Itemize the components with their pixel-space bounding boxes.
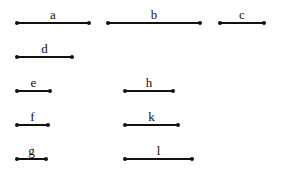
segment-label-d: d xyxy=(41,42,48,55)
segment-c xyxy=(220,22,264,24)
segment-label-b: b xyxy=(151,8,158,21)
segment-d xyxy=(17,56,72,58)
segment-label-l: l xyxy=(157,144,161,157)
segment-g xyxy=(17,158,46,160)
segment-k xyxy=(125,124,178,126)
segment-f xyxy=(17,124,48,126)
segment-e xyxy=(17,90,50,92)
segment-a xyxy=(17,22,89,24)
segment-label-g: g xyxy=(28,144,35,157)
segment-label-a: a xyxy=(50,8,56,21)
segment-label-c: c xyxy=(239,8,245,21)
segment-l xyxy=(125,158,192,160)
segment-label-h: h xyxy=(146,76,153,89)
segment-label-f: f xyxy=(30,110,34,123)
segment-label-k: k xyxy=(148,110,155,123)
segment-label-e: e xyxy=(31,76,37,89)
segment-b xyxy=(108,22,200,24)
segment-h xyxy=(125,90,173,92)
